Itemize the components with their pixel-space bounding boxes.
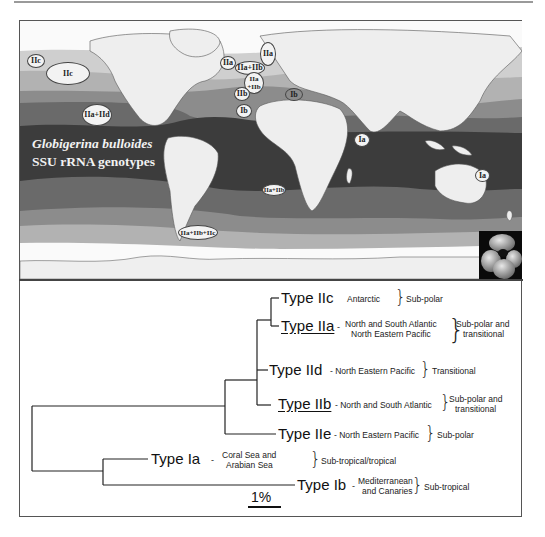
leaf-iib-zone-1: Sub-polar and [449, 394, 502, 404]
brace-iie: } [425, 425, 436, 442]
leaf-ia-dash: - [211, 455, 214, 465]
leaf-ib-dash: - [352, 481, 355, 491]
leaf-iia-location-1: North and South Atlantic [345, 319, 437, 329]
leaf-iia-zone-2: transitional [463, 329, 504, 339]
leaf-ia-zone: Sub-tropical/tropical [321, 456, 396, 466]
leaf-type-iie: Type IIe [278, 425, 331, 442]
brace-ia: } [310, 451, 321, 468]
brace-ib: } [412, 477, 423, 494]
leaf-type-iic: Type IIc [281, 289, 334, 306]
leaf-iic-location: Antarctic [347, 294, 380, 304]
leaf-ib-location-2: and Canaries [362, 486, 413, 496]
leaf-ib-location-1: Mediterranean [358, 476, 413, 486]
leaf-iia-dash: - [337, 322, 340, 332]
leaf-type-iia: Type IIa [281, 317, 334, 334]
leaf-iid-location: - North Eastern Pacific [330, 366, 415, 376]
leaf-type-ib: Type Ib [297, 476, 346, 493]
leaf-type-iib: Type IIb [278, 395, 331, 412]
brace-iic: } [395, 289, 406, 306]
brace-iid: } [420, 361, 431, 378]
leaf-ia-location-1: Coral Sea and [222, 450, 276, 460]
scale-bar-label: 1% [251, 489, 271, 505]
leaf-iie-zone: Sub-polar [437, 430, 474, 440]
leaf-ia-location-2: Arabian Sea [226, 460, 273, 470]
leaf-type-iid: Type IId [269, 361, 322, 378]
leaf-iie-location: - North Eastern Pacific [334, 430, 419, 440]
leaf-iib-zone-2: transitional [455, 404, 496, 414]
leaf-ib-zone: Sub-tropical [424, 482, 469, 492]
leaf-iia-zone-1: Sub-polar and [456, 319, 509, 329]
scale-bar [248, 506, 281, 508]
leaf-iid-zone: Transitional [432, 366, 476, 376]
leaf-iib-location: - North and South Atlantic [335, 400, 432, 410]
leaf-type-ia: Type Ia [151, 450, 200, 467]
leaf-iic-zone: Sub-polar [406, 294, 443, 304]
leaf-iia-location-2: North Eastern Pacific [351, 329, 431, 339]
